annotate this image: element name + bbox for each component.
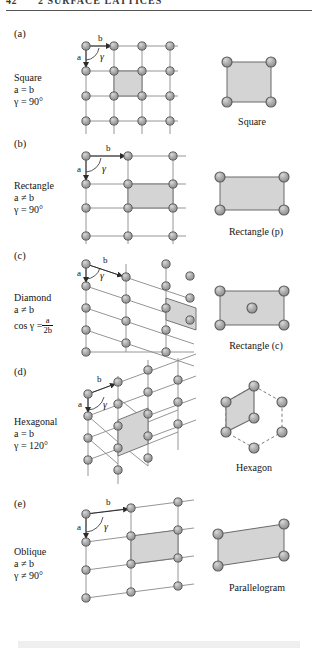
caption-line: Rectangle xyxy=(14,180,54,192)
header-title: 2 SURFACE LATTICES xyxy=(38,0,162,6)
lattice-diagram-oblique: b a γ xyxy=(78,502,196,610)
unit-cell-shade xyxy=(114,71,142,96)
caption-square: Square a = b γ = 90° xyxy=(14,72,43,109)
unit-cell-hexagon xyxy=(214,380,294,460)
cell-name-square: Square xyxy=(212,116,292,127)
caption-line: γ = 120° xyxy=(14,440,57,452)
vector-b-label: b xyxy=(103,255,108,265)
row-tag-e: (e) xyxy=(14,498,26,509)
textbook-figure-page: 42 2 SURFACE LATTICES (a) Square a = b γ… xyxy=(0,0,318,652)
caption-line: a ≠ b xyxy=(14,192,54,204)
unit-cell-parallelogram xyxy=(210,518,300,576)
caption-line: γ = 90° xyxy=(14,204,54,216)
caption-line-cos: cos γ =a2b xyxy=(14,316,53,334)
angle-gamma-label: γ xyxy=(102,163,107,174)
unit-cell-shade xyxy=(131,530,178,564)
vector-b-label: b xyxy=(98,33,103,43)
vector-b-label: b xyxy=(106,143,111,153)
caption-line: Diamond xyxy=(14,292,53,304)
angle-gamma-label: γ xyxy=(104,521,109,532)
unit-cell-shade xyxy=(166,298,196,330)
vector-a-label: a xyxy=(77,52,81,62)
caption-line: a = b xyxy=(14,84,43,96)
angle-gamma-label: γ xyxy=(103,399,108,410)
lattice-diagram-diamond: b a γ xyxy=(78,254,196,362)
angle-gamma-label: γ xyxy=(100,270,105,281)
caption-line: Square xyxy=(14,72,43,84)
centered-atom xyxy=(247,303,257,313)
caption-line: Oblique xyxy=(14,546,46,558)
angle-gamma-label: γ xyxy=(100,51,105,62)
row-hexagonal: (d) Hexagonal a = b γ = 120° xyxy=(0,366,318,482)
cell-name-hexagon: Hexagon xyxy=(214,462,294,473)
footer-band xyxy=(18,641,300,648)
row-square: (a) Square a = b γ = 90° xyxy=(0,28,318,134)
caption-oblique: Oblique a ≠ b γ ≠ 90° xyxy=(14,546,46,583)
caption-line: Hexagonal xyxy=(14,416,57,428)
vector-a-label: a xyxy=(77,522,81,532)
vector-a-label: a xyxy=(77,164,81,174)
header-rule xyxy=(6,10,312,11)
caption-line: a = b xyxy=(14,428,57,440)
cell-name-parallelogram: Parallelogram xyxy=(202,582,312,593)
fraction-a-over-2b: a2b xyxy=(42,316,53,334)
caption-hexagonal: Hexagonal a = b γ = 120° xyxy=(14,416,57,453)
unit-cell-rectangle-c xyxy=(212,284,296,336)
caption-rectangle: Rectangle a ≠ b γ = 90° xyxy=(14,180,54,217)
row-diamond: (c) Diamond a ≠ b cos γ =a2b xyxy=(0,250,318,360)
vector-b-label: b xyxy=(106,497,111,507)
unit-cell-square xyxy=(218,56,284,110)
unit-cell-shade xyxy=(226,386,254,432)
cell-name-rectangle-p: Rectangle (p) xyxy=(206,226,306,237)
fraction-denominator: 2b xyxy=(42,326,53,335)
unit-cell-rectangle-p xyxy=(212,170,296,220)
caption-line: γ = 90° xyxy=(14,96,43,108)
vector-a-label: a xyxy=(78,399,82,409)
row-rectangle: (b) Rectangle a ≠ b γ = 90° xyxy=(0,138,318,244)
unit-cell-shade xyxy=(128,184,173,208)
lattice-diagram-hexagonal: b a γ xyxy=(78,366,196,486)
caption-line: γ ≠ 90° xyxy=(14,570,46,582)
vector-b-label: b xyxy=(97,374,102,384)
cos-gamma-prefix: cos γ = xyxy=(14,320,42,331)
lattice-diagram-rectangle: b a γ xyxy=(78,144,190,250)
page-folio: 42 xyxy=(6,0,17,6)
row-tag-d: (d) xyxy=(14,366,26,377)
caption-diamond: Diamond a ≠ b cos γ =a2b xyxy=(14,292,53,335)
lattice-diagram-square: b a γ xyxy=(78,34,190,140)
cell-name-rectangle-c: Rectangle (c) xyxy=(206,340,306,351)
row-oblique: (e) Oblique a ≠ b γ ≠ 90° xyxy=(0,498,318,608)
row-tag-a: (a) xyxy=(14,28,26,39)
vector-a-label: a xyxy=(77,268,81,278)
caption-line: a ≠ b xyxy=(14,558,46,570)
row-tag-b: (b) xyxy=(14,138,26,149)
row-tag-c: (c) xyxy=(14,250,26,261)
